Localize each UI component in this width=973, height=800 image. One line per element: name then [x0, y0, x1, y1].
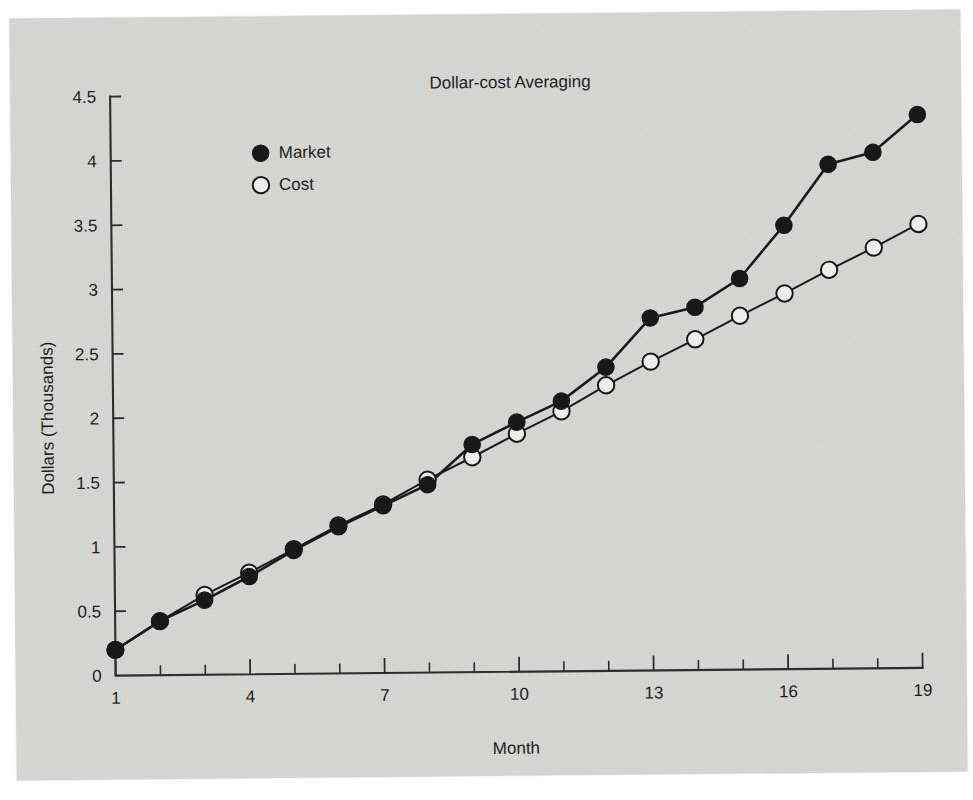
data-point-market: [330, 518, 347, 535]
y-axis-ticks: 00.511.522.533.544.5: [72, 88, 126, 686]
scanned-page: Dollar-cost Averaging Dollars (Thousands…: [0, 0, 973, 800]
data-point-cost: [866, 239, 883, 256]
data-point-market: [598, 359, 615, 376]
data-point-market: [464, 436, 481, 453]
chart-title: Dollar-cost Averaging: [429, 72, 590, 93]
data-point-cost: [776, 285, 793, 302]
series-line-market: [110, 115, 922, 650]
data-point-market: [687, 299, 704, 316]
legend-marker-cost: [253, 177, 270, 194]
line-chart: Dollar-cost Averaging Dollars (Thousands…: [9, 9, 967, 780]
y-tick-label: 0.5: [77, 602, 101, 621]
x-tick-label: 13: [644, 683, 663, 702]
data-point-market: [241, 568, 258, 585]
y-tick-label: 1.5: [76, 474, 100, 493]
data-point-cost: [732, 308, 749, 325]
y-tick-label: 3.5: [74, 216, 98, 235]
y-tick-label: 4: [87, 152, 97, 171]
data-point-market: [731, 270, 748, 287]
data-point-market: [107, 642, 124, 659]
data-point-market: [508, 414, 525, 431]
data-point-market: [642, 310, 659, 327]
y-tick-label: 0: [92, 667, 102, 686]
data-point-market: [909, 106, 926, 123]
data-point-market: [553, 393, 570, 410]
legend-marker-market: [252, 145, 269, 162]
chart-figure: Dollar-cost Averaging Dollars (Thousands…: [9, 9, 967, 780]
legend-label: Cost: [279, 175, 314, 194]
axes: [110, 89, 923, 676]
chart-legend: MarketCost: [252, 143, 331, 195]
y-tick-label: 4.5: [72, 88, 96, 107]
y-axis-title: Dollars (Thousands): [37, 342, 57, 495]
data-point-market: [776, 217, 793, 234]
x-axis-title: Month: [493, 739, 540, 758]
data-point-market: [196, 592, 213, 609]
data-point-cost: [821, 262, 838, 279]
series-markers-market: [102, 106, 931, 658]
data-point-market: [152, 613, 169, 630]
y-tick-label: 2.5: [75, 345, 99, 364]
x-tick-label: 4: [246, 687, 256, 706]
x-tick-label: 19: [913, 681, 932, 700]
data-point-market: [375, 497, 392, 514]
data-point-market: [286, 542, 303, 559]
data-point-cost: [910, 216, 927, 233]
x-tick-label: 10: [510, 685, 529, 704]
data-point-market: [865, 144, 882, 161]
data-point-market: [820, 156, 837, 173]
legend-label: Market: [279, 143, 331, 163]
data-point-cost: [598, 377, 615, 394]
y-tick-label: 3: [88, 281, 98, 300]
y-tick-label: 2: [90, 409, 100, 428]
x-tick-label: 16: [779, 682, 798, 701]
x-axis-ticks: 14710131619: [111, 653, 933, 708]
x-tick-label: 7: [380, 686, 390, 705]
data-point-cost: [687, 331, 704, 348]
paper-sheet: Dollar-cost Averaging Dollars (Thousands…: [9, 9, 967, 780]
data-point-market: [419, 476, 436, 493]
y-tick-label: 1: [91, 538, 101, 557]
data-point-cost: [642, 353, 659, 370]
x-tick-label: 1: [111, 689, 121, 708]
